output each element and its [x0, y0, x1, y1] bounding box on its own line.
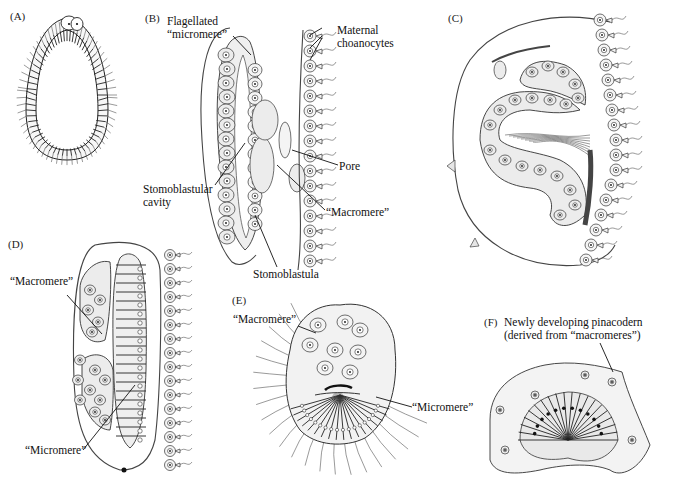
panel-label-b: (B)	[145, 12, 160, 24]
label-line: cavity	[143, 196, 213, 209]
label-line: Stomoblastula	[253, 268, 319, 281]
label-line: Pore	[339, 160, 360, 173]
label-maternal-choanocytes: Maternal choanocytes	[337, 24, 394, 50]
label-line: “Micromere”	[412, 401, 473, 414]
label-stomoblastula: Stomoblastula	[253, 268, 319, 281]
panel-d-embryo-drawing	[73, 242, 193, 472]
label-line: “Macromere”	[10, 275, 73, 288]
label-line: choanocytes	[337, 37, 394, 50]
panel-label-e: (E)	[232, 294, 246, 306]
panel-label-f: (F)	[484, 316, 497, 328]
panel-c-embryo-drawing	[447, 14, 642, 266]
embryology-figure: (A) (B) (C) (D) (E) (F) Flagellated “mic…	[0, 0, 677, 502]
label-stomoblastular-cavity: Stomoblastular cavity	[143, 183, 213, 209]
panel-label-d: (D)	[8, 238, 23, 250]
label-line: “Micromere”	[25, 444, 86, 457]
label-macromere-e: “Macromere”	[233, 313, 296, 326]
label-line: Stomoblastular	[143, 183, 213, 196]
label-flagellated-micromere: Flagellated “micromere”	[167, 15, 227, 41]
figure-drawings	[0, 0, 677, 502]
label-line: “Macromere”	[326, 206, 389, 219]
label-line: Flagellated	[167, 15, 227, 28]
label-macromere-d: “Macromere”	[10, 275, 73, 288]
panel-a-blastula-drawing	[17, 16, 118, 165]
panel-b-stomoblastula-drawing	[201, 28, 336, 270]
label-micromere-d: “Micromere”	[25, 444, 86, 457]
label-line: (derived from “macromeres”)	[504, 329, 643, 342]
panel-f-embryo-drawing	[490, 363, 650, 473]
label-micromere-e: “Micromere”	[412, 401, 473, 414]
label-line: Newly developing pinacodern	[504, 316, 643, 329]
label-line: “micromere”	[167, 28, 227, 41]
label-line: “Macromere”	[233, 313, 296, 326]
label-macromere-b: “Macromere”	[326, 206, 389, 219]
label-newly-developing-pinacoderm: Newly developing pinacodern (derived fro…	[504, 316, 643, 342]
label-line: Maternal	[337, 24, 394, 37]
panel-label-a: (A)	[10, 10, 25, 22]
panel-label-c: (C)	[448, 12, 463, 24]
label-pore: Pore	[339, 160, 360, 173]
panel-e-embryo-drawing	[253, 303, 427, 475]
